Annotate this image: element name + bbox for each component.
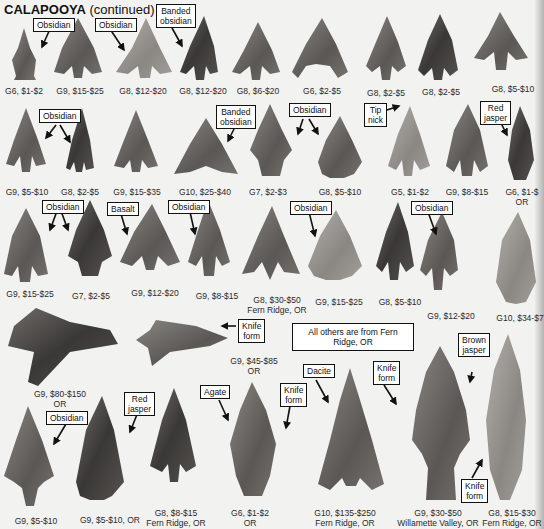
artifact-r2-9 xyxy=(508,106,534,180)
material-tag: Obsidian xyxy=(290,201,332,215)
note-line: All others are from Fern Ridge, OR xyxy=(301,327,405,347)
caption: G10, $135-$250 Fern Ridge, OR xyxy=(314,508,375,528)
caption-line: OR xyxy=(516,197,529,207)
artifact-r5-7 xyxy=(486,334,526,500)
artifact-r3-7 xyxy=(376,202,414,280)
caption: G8, $12-$20 xyxy=(119,86,166,96)
tag-line: jasper xyxy=(462,345,485,355)
caption: G9, $15-$35 xyxy=(113,187,160,197)
artifact-r3-1 xyxy=(4,208,48,282)
caption: G9, $5-$10, OR xyxy=(80,515,140,525)
material-tag: Obsidian xyxy=(39,109,81,123)
artifact-r1-6 xyxy=(292,18,348,78)
material-tag: Tip nick xyxy=(364,103,387,127)
artifact-r3-8 xyxy=(420,212,458,290)
arrow xyxy=(46,125,56,138)
artifact-r1-7 xyxy=(366,16,406,80)
caption-line: G8, $8-$15 xyxy=(155,508,198,518)
material-tag: Obsidian xyxy=(168,200,210,214)
tag-line: Banded xyxy=(161,6,190,16)
arrow xyxy=(298,119,303,134)
tag-line: Brown xyxy=(462,335,486,345)
material-tag: Banded obsidian xyxy=(216,105,256,129)
caption: G9, $30-$50 Willamette Valley, OR xyxy=(397,508,478,528)
artifact-r3-6 xyxy=(308,210,362,280)
caption: G8, $12-$20 xyxy=(179,86,226,96)
material-tag: Knife form xyxy=(238,319,265,343)
artifact-r5-4 xyxy=(230,382,276,496)
arrow xyxy=(121,214,127,234)
caption: G9, $80-$150 OR xyxy=(34,389,86,409)
artifact-r5-5 xyxy=(318,368,384,490)
arrow xyxy=(428,212,436,234)
caption-line: OR xyxy=(54,399,67,409)
tag-line: form xyxy=(466,491,483,501)
artifact-r1-8 xyxy=(418,14,458,80)
material-tag: Obsidian xyxy=(42,200,84,214)
material-tag: Knife form xyxy=(461,479,488,503)
artifact-layer xyxy=(0,0,544,529)
artifact-r2-3 xyxy=(114,110,158,172)
title-bold: CALAPOOYA xyxy=(4,2,86,17)
caption: G8, $5-$10 xyxy=(492,84,535,94)
tag-line: Banded xyxy=(221,107,250,117)
caption-line: Willamette Valley, OR xyxy=(397,518,478,528)
artifact-r2-7 xyxy=(388,106,430,176)
caption: G8, $2-$5 xyxy=(422,87,460,97)
artifact-r3-9 xyxy=(496,212,536,304)
caption-line: G9, $30-$50 xyxy=(414,508,461,518)
arrow xyxy=(472,460,482,478)
page-edge-shadow xyxy=(534,0,544,529)
tag-line: Knife xyxy=(242,321,261,331)
artifact-r3-5 xyxy=(242,206,300,280)
arrow xyxy=(219,400,228,420)
tag-line: Red xyxy=(132,394,148,404)
tag-line: Knife xyxy=(377,363,396,373)
caption: G9, $15-$25 xyxy=(315,297,362,307)
arrow xyxy=(190,212,195,234)
caption-line: OR xyxy=(244,518,257,528)
caption-line: Fern Ridge, OR xyxy=(146,518,206,528)
caption-line: G9, $45-$85 xyxy=(230,356,277,366)
material-tag: Dacite xyxy=(303,364,335,378)
artifact-r2-5 xyxy=(250,104,292,176)
caption: G9, $5-$10 xyxy=(15,516,58,526)
material-tag: Brown jasper xyxy=(458,333,490,357)
material-tag: Banded obsidian xyxy=(156,4,196,28)
artifact-r2-6 xyxy=(318,116,362,178)
tag-line: form xyxy=(378,373,395,383)
arrow xyxy=(470,372,472,382)
page-title: CALAPOOYA (continued) xyxy=(4,2,155,17)
tag-line: jasper xyxy=(484,113,507,123)
arrow xyxy=(172,28,182,46)
arrow xyxy=(60,125,70,142)
tag-line: Knife xyxy=(465,481,484,491)
artifact-r5-3 xyxy=(150,388,196,482)
tag-line: jasper xyxy=(128,404,151,414)
caption: G8, $6-$20 xyxy=(237,86,280,96)
tag-line: Tip xyxy=(370,105,382,115)
caption-line: OR xyxy=(248,366,261,376)
tag-line: nick xyxy=(368,115,383,125)
material-tag: Knife form xyxy=(373,361,400,385)
caption-line: Fern Ridge, OR xyxy=(315,518,375,528)
tag-line: obsidian xyxy=(160,16,192,26)
caption-line: Fern Ridge, OR xyxy=(482,518,542,528)
artifact-r1-1 xyxy=(12,28,36,80)
caption: G9, $12-$20 xyxy=(131,288,178,298)
material-tag: Obsidian xyxy=(95,18,137,32)
material-tag: Red jasper xyxy=(124,392,155,416)
artifact-r4-1 xyxy=(8,308,118,386)
caption-line: Fern Ridge, OR xyxy=(247,305,307,315)
caption-line: G10, $135-$250 xyxy=(314,508,375,518)
caption: G8, $5-$10 xyxy=(319,187,362,197)
caption: G9, $15-$25 xyxy=(56,86,103,96)
caption: G9, $45-$85 OR xyxy=(230,356,277,376)
tag-line: form xyxy=(243,331,260,341)
caption: G8, $5-$10 xyxy=(379,297,422,307)
material-tag: Obsidian xyxy=(289,103,331,117)
arrow xyxy=(309,212,315,236)
material-tag: Red jasper xyxy=(480,101,511,125)
tag-line: Red xyxy=(488,103,504,113)
arrow xyxy=(316,380,328,402)
